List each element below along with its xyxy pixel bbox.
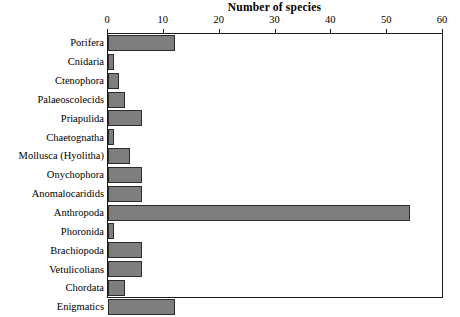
category-label: Mollusca (Hyolitha) (19, 150, 104, 162)
bar (108, 92, 125, 108)
x-axis: 0102030405060 (107, 14, 442, 34)
bar (108, 167, 142, 183)
bar (108, 110, 142, 126)
bar (108, 73, 119, 89)
category-label: Anthropoda (54, 207, 104, 219)
bar-row: Enigmatics (0, 298, 460, 317)
bar-row: Onychophora (0, 166, 460, 185)
bar (108, 54, 114, 70)
category-label: Cnidaria (68, 56, 104, 68)
x-axis-tick-label: 40 (325, 14, 336, 26)
bar-row: Ctenophora (0, 72, 460, 91)
bar (108, 186, 142, 202)
category-label: Phoronida (61, 226, 104, 238)
x-axis-tick-label: 0 (104, 14, 109, 26)
bar-row: Anomalocaridids (0, 185, 460, 204)
bar-row: Chordata (0, 279, 460, 298)
bar (108, 223, 114, 239)
bar (108, 129, 114, 145)
category-label: Chaetognatha (46, 132, 104, 144)
bar-row: Mollusca (Hyolitha) (0, 147, 460, 166)
bar (108, 148, 130, 164)
x-axis-tick-label: 50 (381, 14, 392, 26)
bar-rows: PoriferaCnidariaCtenophoraPalaeoscolecid… (0, 34, 460, 298)
category-label: Priapulida (61, 113, 104, 125)
bar-row: Vetulicolians (0, 260, 460, 279)
x-axis-tick-label: 20 (213, 14, 224, 26)
bar-row: Chaetognatha (0, 128, 460, 147)
bar-row: Anthropoda (0, 204, 460, 223)
bar (108, 205, 410, 221)
category-label: Chordata (66, 282, 105, 294)
category-label: Brachiopoda (50, 245, 104, 257)
bar (108, 299, 175, 315)
category-label: Onychophora (47, 169, 104, 181)
bar (108, 261, 142, 277)
category-label: Porifera (70, 37, 104, 49)
x-axis-tick-label: 30 (269, 14, 280, 26)
category-label: Vetulicolians (49, 264, 104, 276)
x-axis-tick-label: 60 (437, 14, 448, 26)
category-label: Ctenophora (55, 75, 104, 87)
bar-row: Priapulida (0, 109, 460, 128)
bar (108, 280, 125, 296)
chart-title: Number of species (107, 0, 442, 14)
bar (108, 242, 142, 258)
bar (108, 35, 175, 51)
category-label: Enigmatics (57, 301, 104, 313)
bar-row: Brachiopoda (0, 241, 460, 260)
category-label: Anomalocaridids (32, 188, 104, 200)
x-axis-tick-label: 10 (158, 14, 169, 26)
bar-row: Palaeoscolecids (0, 91, 460, 110)
bar-row: Porifera (0, 34, 460, 53)
bar-row: Phoronida (0, 222, 460, 241)
category-label: Palaeoscolecids (38, 94, 104, 106)
bar-row: Cnidaria (0, 53, 460, 72)
